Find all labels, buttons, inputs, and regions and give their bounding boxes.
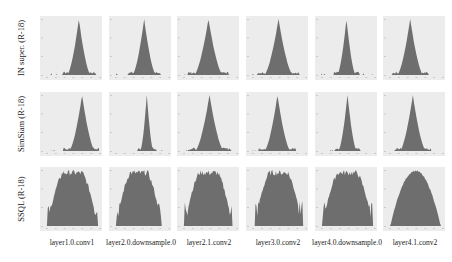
histogram-bars bbox=[315, 16, 377, 80]
histogram-bars bbox=[246, 92, 308, 156]
histogram-bars bbox=[383, 167, 445, 231]
histogram-bars bbox=[177, 16, 239, 80]
row-label-simsiam: SimSiam (R-18) bbox=[14, 88, 28, 160]
histogram-bars bbox=[109, 92, 171, 156]
histogram-bars bbox=[383, 92, 445, 156]
histogram-panel bbox=[383, 92, 445, 156]
histogram-panel bbox=[177, 16, 239, 80]
histogram-panel bbox=[109, 92, 171, 156]
histogram-panel bbox=[109, 16, 171, 80]
histogram-bars bbox=[177, 92, 239, 156]
histogram-bars bbox=[177, 167, 239, 231]
histogram-bars bbox=[40, 92, 102, 156]
col-label-layer3: layer3.0.conv2 bbox=[243, 238, 313, 247]
col-label-layer4-downsample: layer4.0.downsample.0 bbox=[312, 238, 382, 247]
histogram-bars bbox=[315, 92, 377, 156]
histogram-panel bbox=[315, 92, 377, 156]
histogram-bars bbox=[246, 16, 308, 80]
histogram-panel bbox=[246, 16, 308, 80]
histogram-panel bbox=[40, 167, 102, 231]
row-label-text: SSQL (R-18) bbox=[16, 176, 26, 221]
histogram-panel bbox=[383, 167, 445, 231]
histogram-bars bbox=[246, 167, 308, 231]
col-label-layer2-conv2: layer2.1.conv2 bbox=[174, 238, 244, 247]
row-label-ssql: SSQL (R-18) bbox=[14, 163, 28, 235]
histogram-panel bbox=[177, 167, 239, 231]
histogram-panel bbox=[109, 167, 171, 231]
histogram-panel bbox=[246, 167, 308, 231]
row-label-text: IN super. (R-18) bbox=[16, 20, 26, 76]
histogram-bars bbox=[40, 167, 102, 231]
histogram-panel bbox=[40, 16, 102, 80]
histogram-panel bbox=[315, 16, 377, 80]
row-label-text: SimSiam (R-18) bbox=[16, 96, 26, 152]
histogram-grid-figure: IN super. (R-18) SimSiam (R-18) SSQL (R-… bbox=[0, 0, 452, 262]
histogram-panel bbox=[315, 167, 377, 231]
col-label-layer2-downsample: layer2.0.downsample.0 bbox=[106, 238, 176, 247]
row-label-in-super: IN super. (R-18) bbox=[14, 12, 28, 84]
col-label-layer1: layer1.0.conv1 bbox=[37, 238, 107, 247]
histogram-bars bbox=[109, 167, 171, 231]
histogram-panel bbox=[383, 16, 445, 80]
histogram-panel bbox=[246, 92, 308, 156]
col-label-layer4-conv2: layer4.1.conv2 bbox=[380, 238, 450, 247]
histogram-panel bbox=[40, 92, 102, 156]
histogram-panel bbox=[177, 92, 239, 156]
histogram-bars bbox=[40, 16, 102, 80]
histogram-bars bbox=[109, 16, 171, 80]
histogram-bars bbox=[383, 16, 445, 80]
histogram-bars bbox=[315, 167, 377, 231]
